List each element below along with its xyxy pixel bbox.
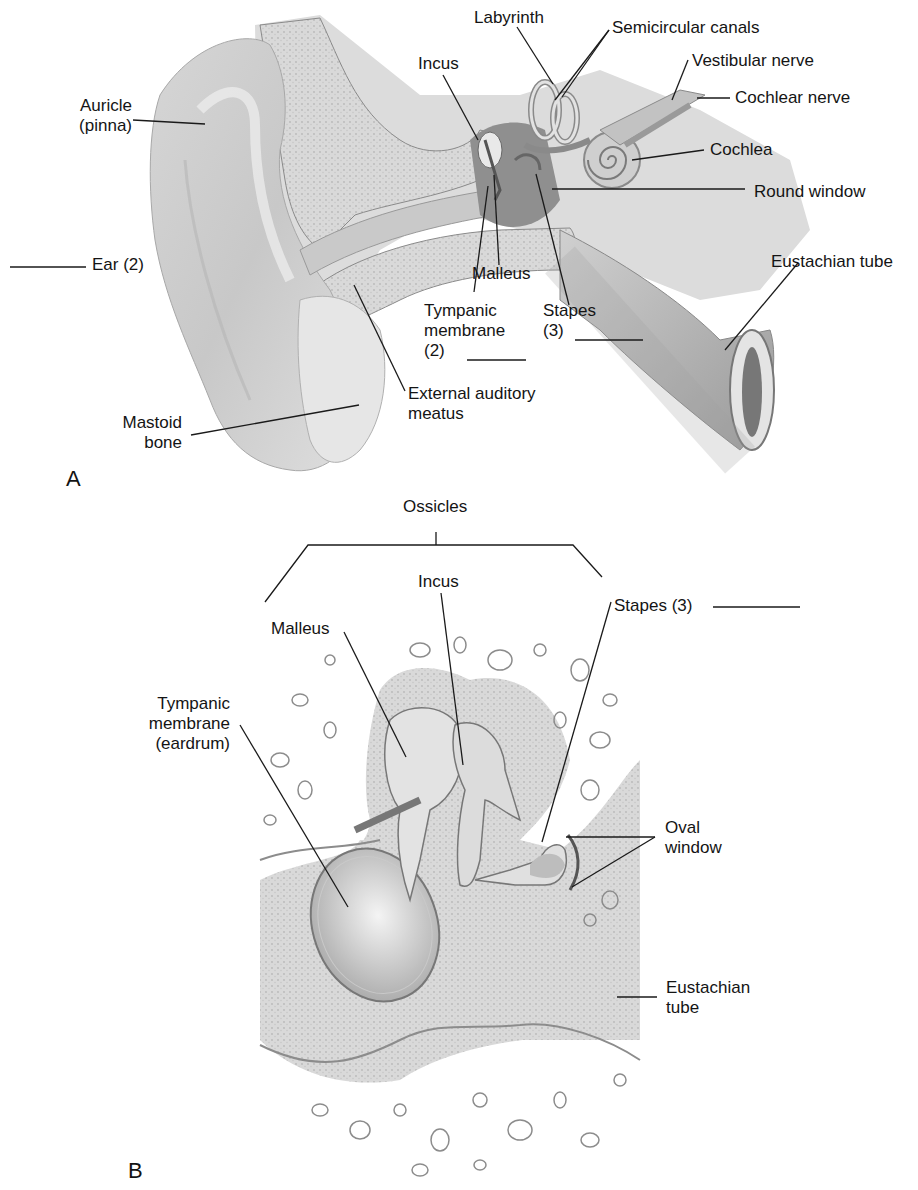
- label-tympanic-b-line2: membrane: [130, 714, 230, 734]
- label-tympanic-line3: (2): [424, 341, 505, 361]
- label-mastoid-bone: Mastoid bone: [100, 413, 182, 453]
- label-oval-line2: window: [665, 838, 722, 858]
- label-mastoid-line2: bone: [100, 433, 182, 453]
- label-tympanic-membrane-a: Tympanic membrane (2): [424, 301, 505, 361]
- label-mastoid-line1: Mastoid: [100, 413, 182, 433]
- label-stapes-line2: (3): [543, 321, 596, 341]
- label-stapes-a: Stapes (3): [543, 301, 596, 341]
- label-cochlear-nerve: Cochlear nerve: [735, 88, 850, 108]
- label-oval-window: Oval window: [665, 818, 722, 858]
- label-eustachian-tube-b: Eustachian tube: [666, 978, 750, 1018]
- label-auricle-line2: (pinna): [66, 116, 132, 136]
- label-external-line2: meatus: [408, 404, 536, 424]
- label-auricle: Auricle (pinna): [66, 96, 132, 136]
- label-malleus-b: Malleus: [271, 619, 330, 639]
- label-external-line1: External auditory: [408, 384, 536, 404]
- label-eustachian-tube-a: Eustachian tube: [771, 252, 893, 272]
- label-cochlea: Cochlea: [710, 140, 772, 160]
- label-tympanic-line2: membrane: [424, 321, 505, 341]
- label-incus-a: Incus: [418, 54, 459, 74]
- panel-letter-b: B: [128, 1158, 143, 1184]
- label-eustachian-line1: Eustachian: [666, 978, 750, 998]
- label-labyrinth: Labyrinth: [474, 8, 544, 28]
- label-ossicles: Ossicles: [403, 497, 467, 517]
- label-tympanic-membrane-b: Tympanic membrane (eardrum): [130, 694, 230, 754]
- panel-letter-a: A: [66, 466, 81, 492]
- label-tympanic-b-line3: (eardrum): [130, 734, 230, 754]
- label-round-window: Round window: [754, 182, 866, 202]
- label-auricle-line1: Auricle: [66, 96, 132, 116]
- label-semicircular-canals: Semicircular canals: [612, 18, 759, 38]
- label-tympanic-b-line1: Tympanic: [130, 694, 230, 714]
- label-incus-b: Incus: [418, 572, 459, 592]
- label-tympanic-line1: Tympanic: [424, 301, 505, 321]
- label-stapes-b: Stapes (3): [614, 596, 692, 616]
- label-eustachian-line2: tube: [666, 998, 750, 1018]
- label-stapes-line1: Stapes: [543, 301, 596, 321]
- label-malleus-a: Malleus: [472, 264, 531, 284]
- panel-b-drawing: [260, 628, 640, 1180]
- label-oval-line1: Oval: [665, 818, 722, 838]
- label-external-auditory-meatus: External auditory meatus: [408, 384, 536, 424]
- label-vestibular-nerve: Vestibular nerve: [692, 51, 814, 71]
- ear-illustration: [0, 0, 918, 1190]
- label-ear: Ear (2): [92, 255, 144, 275]
